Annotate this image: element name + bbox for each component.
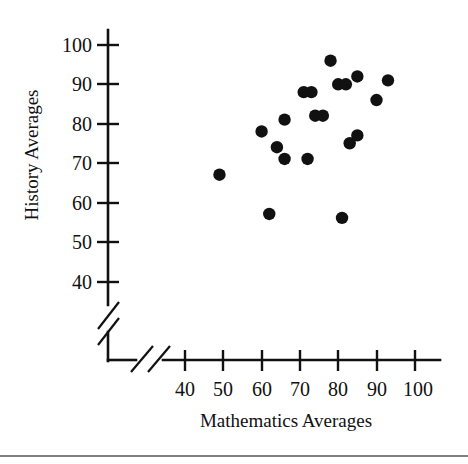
data-point [255, 125, 267, 137]
x-tick-label-60: 60 [252, 378, 272, 400]
x-tick-label-50: 50 [213, 378, 233, 400]
data-point [278, 113, 290, 125]
x-tick-label-70: 70 [290, 378, 310, 400]
x-tick-label-90: 90 [367, 378, 387, 400]
data-point [336, 212, 348, 224]
y-tick-label-100: 100 [62, 34, 92, 56]
x-axis: 40 50 60 70 80 90 100 Mathematics Averag… [108, 346, 440, 431]
data-point-series [213, 55, 394, 225]
y-tick-label-90: 90 [72, 73, 92, 95]
x-tick-label-80: 80 [328, 378, 348, 400]
plot-canvas: 100 90 80 70 60 50 40 History Averages [0, 0, 468, 464]
data-point [340, 78, 352, 90]
data-point [370, 94, 382, 106]
x-tick-label-100: 100 [403, 378, 433, 400]
data-point [351, 70, 363, 82]
data-point [301, 153, 313, 165]
data-point [213, 168, 225, 180]
data-point [271, 141, 283, 153]
data-point [278, 153, 290, 165]
y-tick-label-60: 60 [72, 192, 92, 214]
data-point [263, 208, 275, 220]
data-point [382, 74, 394, 86]
scatter-plot-figure: 100 90 80 70 60 50 40 History Averages [0, 0, 468, 464]
y-tick-label-50: 50 [72, 231, 92, 253]
data-point [324, 55, 336, 67]
y-tick-label-80: 80 [72, 113, 92, 135]
y-axis-title: History Averages [21, 89, 42, 220]
y-axis: 100 90 80 70 60 50 40 History Averages [21, 30, 119, 361]
y-tick-label-40: 40 [72, 271, 92, 293]
data-point [305, 86, 317, 98]
data-point [351, 129, 363, 141]
x-axis-title: Mathematics Averages [200, 410, 372, 431]
x-tick-label-40: 40 [175, 378, 195, 400]
data-point [317, 110, 329, 122]
y-tick-label-70: 70 [72, 152, 92, 174]
